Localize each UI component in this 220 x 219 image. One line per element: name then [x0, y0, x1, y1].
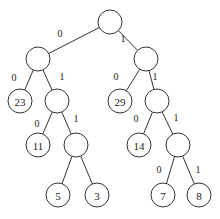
tree-edge — [166, 156, 174, 183]
node-label: 14 — [134, 140, 146, 152]
edge-label: 1 — [60, 71, 65, 82]
node-circle — [98, 10, 122, 34]
internal-node — [26, 47, 50, 71]
internal-node — [64, 133, 88, 157]
internal-node — [134, 47, 158, 71]
leaf-node: 29 — [108, 89, 132, 113]
tree-edge — [144, 112, 153, 134]
node-circle — [145, 89, 169, 113]
node-circle — [134, 47, 158, 71]
edge-label: 0 — [114, 71, 119, 82]
internal-node — [145, 89, 169, 113]
edge-label: 1 — [74, 113, 79, 124]
leaf-node: 8 — [187, 183, 211, 207]
internal-node — [45, 89, 69, 113]
edge-label: 1 — [121, 33, 126, 44]
edge-label: 0 — [12, 72, 17, 83]
tree-edge — [25, 70, 34, 90]
edge-label: 0 — [134, 113, 139, 124]
node-label: 8 — [196, 190, 202, 202]
node-label: 5 — [55, 190, 61, 202]
node-label: 29 — [115, 96, 127, 108]
node-label: 23 — [15, 96, 27, 108]
tree-edge — [49, 27, 100, 53]
node-label: 7 — [160, 190, 166, 202]
tree-edge — [43, 112, 52, 134]
node-label: 11 — [33, 140, 44, 152]
edge-label: 1 — [174, 112, 179, 123]
leaf-node: 14 — [127, 133, 151, 157]
edge-label: 0 — [58, 28, 63, 39]
edge-label: 1 — [196, 164, 201, 175]
edge-label: 1 — [153, 71, 158, 82]
edge-label: 0 — [157, 164, 162, 175]
tree-edge — [62, 112, 71, 134]
node-circle — [45, 89, 69, 113]
tree-edge — [62, 156, 72, 183]
nodes-layer: 232911145378 — [8, 10, 211, 207]
edge-label: 0 — [35, 118, 40, 129]
node-circle — [26, 47, 50, 71]
tree-edge — [81, 156, 93, 184]
tree-edge — [126, 69, 139, 91]
leaf-node: 11 — [26, 133, 50, 157]
tree-edge — [162, 112, 173, 134]
node-circle — [64, 133, 88, 157]
tree-svg: 010101010101 232911145378 — [0, 0, 220, 219]
leaf-node: 23 — [8, 89, 32, 113]
leaf-node: 5 — [46, 183, 70, 207]
node-circle — [166, 133, 190, 157]
leaf-node: 7 — [151, 183, 175, 207]
internal-node — [166, 133, 190, 157]
tree-edge — [183, 156, 195, 184]
internal-node — [98, 10, 122, 34]
tree-edge — [43, 70, 52, 90]
leaf-node: 3 — [85, 183, 109, 207]
tree-diagram: 010101010101 232911145378 — [0, 0, 220, 219]
node-label: 3 — [94, 190, 100, 202]
